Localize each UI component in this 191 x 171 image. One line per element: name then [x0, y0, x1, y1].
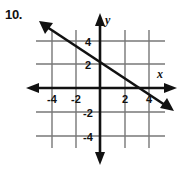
xtick-label-2: 2	[122, 93, 128, 105]
plotted-line-series	[39, 21, 174, 111]
arrow-right-icon	[164, 83, 177, 93]
xtick-label-4: 4	[146, 93, 153, 105]
ytick-label--2: -2	[83, 107, 93, 119]
arrow-upper-left-icon	[39, 21, 53, 34]
ytick-label-4: 4	[85, 36, 92, 48]
arrow-left-icon	[26, 83, 39, 93]
x-axis-label: x	[156, 67, 163, 81]
coordinate-plane-graph: y x 4 2 -2 -4 -4 -2 2 4	[0, 0, 191, 171]
arrow-up-icon	[95, 13, 105, 26]
ytick-label-2: 2	[85, 59, 91, 71]
x-axis	[26, 83, 177, 93]
xtick-label--4: -4	[47, 93, 58, 105]
xtick-label--2: -2	[71, 93, 81, 105]
ytick-label--4: -4	[83, 131, 94, 143]
math-problem-figure: 10.	[0, 0, 191, 171]
arrow-down-icon	[95, 152, 105, 165]
y-axis-label: y	[103, 13, 111, 27]
